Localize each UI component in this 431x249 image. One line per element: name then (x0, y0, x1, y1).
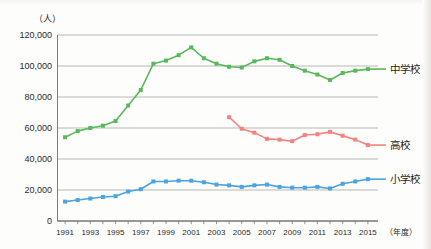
x-tick-label: 1995 (107, 228, 125, 237)
data-point-marker (240, 185, 244, 189)
data-point-marker (315, 185, 319, 189)
data-point-marker (151, 179, 155, 183)
data-point-marker (114, 194, 118, 198)
data-point-marker (177, 179, 181, 183)
data-point-marker (88, 126, 92, 130)
data-point-marker (315, 73, 319, 77)
y-tick-label: 60,000 (24, 123, 52, 133)
data-point-marker (126, 190, 130, 194)
data-point-marker (101, 195, 105, 199)
y-axis-labels-group: 020,00040,00060,00080,000100,000120,000 (19, 30, 52, 226)
data-point-marker (76, 129, 80, 133)
data-point-marker (328, 130, 332, 134)
data-point-marker (189, 179, 193, 183)
data-point-marker (202, 56, 206, 60)
x-tick-label: 2015 (359, 228, 377, 237)
data-point-marker (353, 69, 357, 73)
data-point-marker (214, 62, 218, 66)
data-point-marker (177, 53, 181, 57)
data-point-marker (101, 124, 105, 128)
series-高校 (227, 115, 370, 147)
data-point-marker (214, 183, 218, 187)
data-point-marker (290, 64, 294, 68)
data-point-marker (278, 185, 282, 189)
data-point-marker (353, 179, 357, 183)
data-point-marker (252, 183, 256, 187)
x-tick-label: 1991 (56, 228, 74, 237)
data-point-marker (189, 45, 193, 49)
data-point-marker (303, 69, 307, 73)
y-tick-label: 40,000 (24, 154, 52, 164)
data-point-marker (328, 186, 332, 190)
series-小学校 (63, 177, 370, 203)
y-tick-label: 120,000 (19, 30, 52, 40)
data-point-marker (227, 115, 231, 119)
data-point-marker (341, 134, 345, 138)
y-tick-label: 0 (47, 216, 52, 226)
data-point-marker (114, 119, 118, 123)
data-point-marker (139, 88, 143, 92)
x-tick-label: 2003 (208, 228, 226, 237)
series-line (65, 47, 368, 137)
x-tick-label: 2009 (283, 228, 301, 237)
data-point-marker (290, 186, 294, 190)
data-point-marker (151, 62, 155, 66)
series-中学校 (63, 45, 370, 139)
data-point-marker (240, 66, 244, 70)
x-axis-unit-label: （年度） (385, 227, 417, 237)
series-line (229, 117, 368, 145)
line-chart: 020,00040,00060,00080,000100,000120,000 … (0, 0, 431, 249)
data-point-marker (126, 104, 130, 108)
data-point-marker (315, 132, 319, 136)
y-axis-unit-label: （人） (34, 14, 61, 24)
x-tick-label: 2005 (233, 228, 251, 237)
legend-group: 中学校高校小学校 (368, 63, 421, 185)
data-point-marker (278, 138, 282, 142)
data-point-marker (252, 59, 256, 63)
x-tick-label: 2001 (182, 228, 200, 237)
x-tick-label: 2007 (258, 228, 276, 237)
data-point-marker (341, 182, 345, 186)
data-point-marker (88, 197, 92, 201)
legend-label-高校: 高校 (390, 139, 411, 151)
legend-label-小学校: 小学校 (390, 173, 421, 185)
data-point-marker (265, 137, 269, 141)
data-point-marker (353, 138, 357, 142)
x-tick-label: 1997 (132, 228, 150, 237)
data-point-marker (303, 186, 307, 190)
series-group (63, 45, 370, 203)
series-line (65, 179, 368, 201)
legend-label-中学校: 中学校 (390, 63, 421, 75)
x-tick-label: 2011 (309, 228, 327, 237)
data-point-marker (265, 183, 269, 187)
data-point-marker (290, 139, 294, 143)
data-point-marker (63, 200, 67, 204)
data-point-marker (164, 179, 168, 183)
x-tick-label: 2013 (334, 228, 352, 237)
data-point-marker (341, 71, 345, 75)
data-point-marker (252, 131, 256, 135)
x-tick-label: 1999 (157, 228, 175, 237)
data-point-marker (328, 78, 332, 82)
data-point-marker (265, 56, 269, 60)
data-point-marker (227, 65, 231, 69)
y-tick-label: 20,000 (24, 185, 52, 195)
data-point-marker (278, 58, 282, 62)
x-axis-labels-group: 1991199319951997199920012003200520072009… (56, 228, 377, 237)
x-tick-label: 1993 (81, 228, 99, 237)
data-point-marker (139, 187, 143, 191)
data-point-marker (227, 183, 231, 187)
data-point-marker (164, 59, 168, 63)
y-tick-label: 100,000 (19, 61, 52, 71)
data-point-marker (303, 133, 307, 137)
data-point-marker (202, 180, 206, 184)
data-point-marker (76, 198, 80, 202)
data-point-marker (240, 127, 244, 131)
chart-canvas: 020,00040,00060,00080,000100,000120,000 … (0, 0, 431, 249)
data-point-marker (63, 135, 67, 139)
y-tick-label: 80,000 (24, 92, 52, 102)
